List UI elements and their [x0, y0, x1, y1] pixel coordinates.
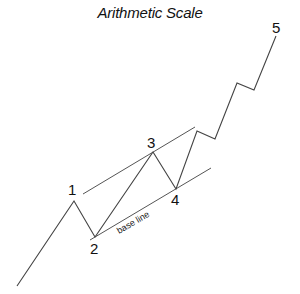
wave-path: [17, 36, 276, 286]
wave-label-1: 1: [68, 181, 76, 198]
wave-label-3: 3: [147, 134, 155, 151]
wave-label-5: 5: [272, 19, 280, 36]
elliott-wave-diagram: 1 2 3 4 5 base line: [0, 0, 300, 294]
wave-label-4: 4: [171, 191, 179, 208]
wave-label-2: 2: [90, 240, 98, 257]
